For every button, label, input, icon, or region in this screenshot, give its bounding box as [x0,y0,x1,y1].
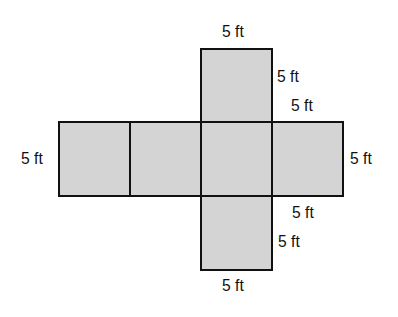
label-right-bottom-width: 5 ft [292,203,314,223]
label-right-height: 5 ft [350,149,372,169]
label-top-width: 5 ft [222,22,244,42]
face-row-2 [129,121,202,197]
face-top [200,48,273,123]
label-bottom-width: 5 ft [222,276,244,296]
face-row-4 [271,121,344,197]
face-row-1 [58,121,131,197]
face-row-3 [200,121,273,197]
label-top-height: 5 ft [277,67,299,87]
label-right-top-width: 5 ft [291,96,313,116]
face-bottom [200,195,273,271]
label-bottom-height: 5 ft [278,232,300,252]
label-left-height: 5 ft [21,149,43,169]
